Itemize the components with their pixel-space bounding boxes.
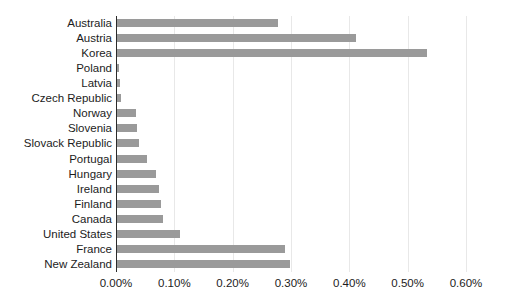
bar-row [116,167,466,181]
y-axis-label: Austria [0,31,112,45]
x-axis-tick-label: 0.20% [216,277,249,289]
y-axis-label: Australia [0,16,112,30]
bar [116,200,161,208]
y-axis-line [116,16,117,272]
x-axis-tick-label: 0.10% [158,277,191,289]
bar-row [116,31,466,45]
x-axis-tick-label: 0.50% [391,277,424,289]
y-axis-label: Slovenia [0,121,112,135]
x-axis-tick-label: 0.40% [333,277,366,289]
y-axis-label: Norway [0,106,112,120]
bar [116,49,427,57]
bar [116,139,139,147]
bar [116,109,136,117]
bar [116,260,290,268]
bar [116,124,137,132]
bar [116,215,163,223]
bar [116,19,278,27]
x-axis-tick-label: 0.30% [275,277,308,289]
y-axis-label: Finland [0,197,112,211]
y-axis-label: Ireland [0,182,112,196]
bar-row [116,136,466,150]
y-axis-category-labels: AustraliaAustriaKoreaPolandLatviaCzech R… [0,16,112,272]
bar-chart: AustraliaAustriaKoreaPolandLatviaCzech R… [0,0,505,307]
y-axis-label: Canada [0,212,112,226]
x-axis-tick-label: 0.00% [100,277,133,289]
bar-row [116,76,466,90]
bar-row [116,106,466,120]
y-axis-label: Latvia [0,76,112,90]
gridline [466,16,467,272]
y-axis-label: France [0,242,112,256]
x-axis-tick-labels: 0.00%0.10%0.20%0.30%0.40%0.50%0.60% [0,277,505,293]
bar-row [116,182,466,196]
bar-row [116,91,466,105]
bar [116,34,356,42]
bar [116,155,147,163]
y-axis-label: Poland [0,61,112,75]
plot-area [116,16,466,272]
bar-row [116,257,466,271]
bar [116,185,159,193]
y-axis-label: Korea [0,46,112,60]
y-axis-label: United States [0,227,112,241]
bar-row [116,197,466,211]
y-axis-label: Hungary [0,167,112,181]
bar [116,170,156,178]
y-axis-label: Slovack Republic [0,136,112,150]
y-axis-label: Czech Republic [0,91,112,105]
bar-row [116,227,466,241]
bar-row [116,152,466,166]
bar-row [116,46,466,60]
x-axis-tick-label: 0.60% [450,277,483,289]
bar-row [116,121,466,135]
bar-row [116,242,466,256]
bar [116,245,285,253]
y-axis-label: New Zealand [0,257,112,271]
bar-row [116,212,466,226]
bar-row [116,16,466,30]
bar [116,230,180,238]
bar-row [116,61,466,75]
y-axis-label: Portugal [0,152,112,166]
